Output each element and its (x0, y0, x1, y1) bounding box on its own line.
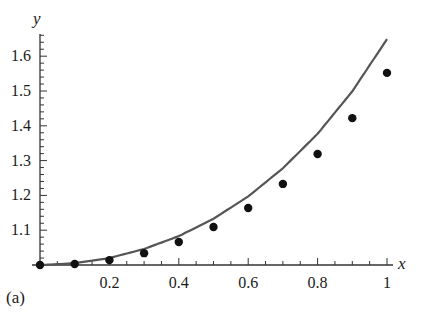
x-axis-label: x (397, 254, 406, 273)
y-axis-label: y (31, 9, 41, 28)
x-tick-label: 0.6 (238, 274, 258, 291)
x-tick-label: 0.8 (308, 274, 328, 291)
data-point (36, 261, 44, 269)
data-point (209, 223, 217, 231)
x-tick-label: 1 (383, 274, 391, 291)
data-point (383, 69, 391, 77)
data-point (244, 204, 252, 212)
data-point (279, 180, 287, 188)
scatter-series (36, 69, 391, 269)
data-point (313, 150, 321, 158)
y-tick-label: 1.1 (11, 221, 31, 238)
chart: 0.20.40.60.811.11.21.31.41.51.6 x y (a) (0, 0, 432, 315)
panel-label: (a) (6, 288, 25, 307)
y-tick-label: 1.6 (11, 47, 31, 64)
y-tick-label: 1.3 (11, 152, 31, 169)
data-point (140, 249, 148, 257)
data-point (105, 256, 113, 264)
y-tick-label: 1.4 (11, 117, 31, 134)
axes: 0.20.40.60.811.11.21.31.41.51.6 (11, 34, 393, 291)
y-tick-label: 1.2 (11, 186, 31, 203)
x-tick-label: 0.4 (169, 274, 189, 291)
data-point (71, 260, 79, 268)
data-point (175, 238, 183, 246)
x-tick-label: 0.2 (99, 274, 119, 291)
y-tick-label: 1.5 (11, 82, 31, 99)
data-point (348, 114, 356, 122)
